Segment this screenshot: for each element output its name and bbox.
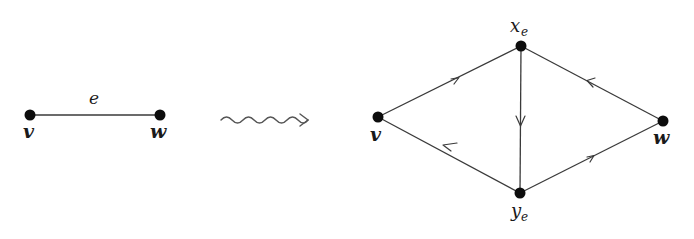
node-xe — [516, 41, 527, 52]
node-label-v-left: v — [23, 120, 35, 142]
edge-ye-to-w — [520, 121, 663, 193]
diagram-canvas: e v w v w x e — [0, 0, 694, 239]
right-graph: v w x e y e — [370, 15, 670, 224]
node-label-v-right: v — [370, 123, 382, 145]
node-label-w-left: w — [150, 120, 167, 142]
node-label-xe-subscript: e — [521, 25, 528, 39]
edge-v-to-xe — [378, 46, 521, 117]
left-graph: e v w — [23, 88, 167, 142]
node-label-ye-subscript: e — [521, 210, 528, 224]
node-label-xe: x e — [510, 15, 528, 39]
edge-w-to-xe — [521, 46, 663, 121]
node-ye — [515, 188, 526, 199]
node-label-ye: y e — [510, 200, 528, 224]
arrowhead-ye-v-icon — [443, 143, 457, 151]
edge-ye-to-v — [378, 117, 520, 193]
node-v-right — [373, 112, 384, 123]
node-v-left — [25, 110, 36, 121]
node-label-xe-base: x — [510, 15, 520, 36]
node-w-right — [658, 116, 669, 127]
node-w-left — [155, 110, 166, 121]
squiggly-arrow-icon — [221, 114, 308, 126]
edge-label-e: e — [89, 88, 99, 108]
node-label-w-right: w — [653, 126, 670, 148]
edge-xe-to-ye — [520, 46, 521, 193]
